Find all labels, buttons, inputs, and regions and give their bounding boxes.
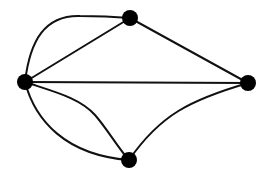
edge-top-right-line xyxy=(130,18,248,83)
node-left xyxy=(17,74,33,90)
node-right xyxy=(240,75,256,91)
edges-group xyxy=(25,16,248,160)
node-bottom xyxy=(121,152,137,168)
edge-left-bottom-upper xyxy=(25,82,129,160)
edge-left-right-line xyxy=(25,82,248,83)
edge-bottom-right-curve xyxy=(129,83,248,160)
nodes-group xyxy=(17,10,256,168)
node-top xyxy=(122,10,138,26)
edge-left-bottom-lower xyxy=(25,82,129,160)
edge-left-top-line xyxy=(25,18,130,82)
graph-diagram xyxy=(0,0,268,178)
